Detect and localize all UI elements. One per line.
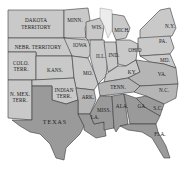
civil-war-era-us-map: DAKOTA TERRITORY MINN. WIS. MICH. N.Y. N… [0,0,187,175]
label-nc: N.C. [159,87,169,93]
label-ky: KY. [128,69,136,75]
label-la: LA. [91,114,100,120]
label-ohio: OHIO [128,47,142,53]
label-texas: TEXAS [43,119,67,125]
label-mo: MO. [83,70,93,76]
label-kans: KANS. [47,67,63,73]
label-ala: ALA. [116,103,128,109]
label-mich: MICH. [114,27,129,33]
region-florida [120,124,170,158]
label-indian-2: TERR. [56,93,71,99]
label-dakota-2: TERRITORY [21,24,51,30]
label-va: VA. [158,71,166,77]
label-fla: FLA. [154,131,166,137]
label-nmex-2: TERR. [12,97,27,103]
label-md: MD. [160,57,170,63]
label-ill: ILL. [96,53,106,59]
label-minn: MINN. [67,17,83,23]
label-colo-2: TERR. [13,66,28,72]
label-ind: IND. [109,52,120,58]
label-dakota-1: DAKOTA [25,17,47,23]
label-wis: WIS. [91,24,102,30]
label-ark: ARK. [82,94,95,100]
label-ga: GA. [137,103,146,109]
label-miss: MISS. [97,107,111,113]
region-pennsylvania [138,36,174,56]
label-iowa: IOWA [73,42,87,48]
label-tenn: TENN. [110,84,126,90]
label-sc: S.C. [153,105,162,111]
label-ny: N.Y. [165,23,175,29]
label-pa: PA. [159,38,167,44]
label-nebr: NEBR. TERRITORY [15,44,62,50]
